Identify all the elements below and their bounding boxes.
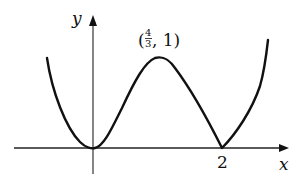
y-axis-label: y: [71, 8, 82, 28]
x-axis-label: x: [279, 154, 289, 174]
y-axis-arrow-icon: [89, 15, 97, 26]
peak-annotation: ( 4 3 , 1): [138, 27, 180, 50]
peak-frac-numerator: 4: [145, 27, 151, 38]
x-tick-2: 2: [217, 152, 228, 172]
function-graph: y x 2 ( 4 3 , 1): [0, 0, 295, 174]
peak-close: , 1): [152, 30, 180, 50]
function-curve: [47, 40, 268, 148]
peak-frac-denominator: 3: [145, 38, 151, 49]
x-axis-arrow-icon: [279, 144, 289, 152]
peak-open-paren: (: [138, 30, 145, 50]
